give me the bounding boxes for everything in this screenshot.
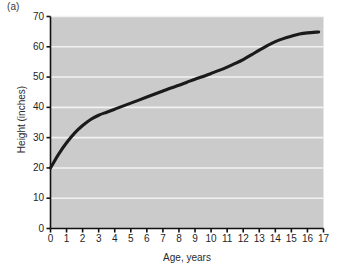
y-tick-label-60: 60 bbox=[22, 42, 44, 52]
y-tick-label-40: 40 bbox=[22, 102, 44, 112]
x-axis-tick-labels: 01234567891011121314151617 bbox=[0, 234, 339, 248]
figure-panel-a: (a) Height (inches) Age, years 010203040… bbox=[0, 0, 339, 273]
x-tick-label-17: 17 bbox=[314, 234, 334, 244]
plot-area-background bbox=[51, 17, 324, 229]
y-tick-label-70: 70 bbox=[22, 12, 44, 22]
y-axis-tick-labels: 010203040506070 bbox=[20, 0, 44, 273]
plot-background-group bbox=[51, 17, 324, 229]
y-tick-label-30: 30 bbox=[22, 133, 44, 143]
y-tick-label-0: 0 bbox=[22, 224, 44, 234]
y-tick-label-10: 10 bbox=[22, 193, 44, 203]
y-tick-label-20: 20 bbox=[22, 163, 44, 173]
y-tick-label-50: 50 bbox=[22, 72, 44, 82]
